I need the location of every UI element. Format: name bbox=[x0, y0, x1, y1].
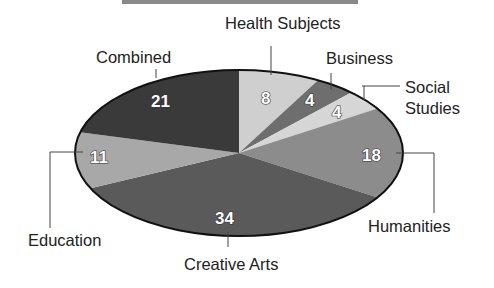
label-humanities: Humanities bbox=[368, 217, 451, 235]
label-health-subjects: Health Subjects bbox=[225, 14, 341, 32]
value-social-studies: 4 bbox=[332, 103, 342, 122]
label-creative-arts: Creative Arts bbox=[184, 255, 278, 273]
value-humanities: 18 bbox=[362, 146, 381, 165]
pie-chart: Health Subjects Business Social Studies … bbox=[0, 0, 494, 288]
label-social-line1: Social bbox=[405, 78, 450, 96]
label-combined: Combined bbox=[96, 48, 171, 66]
value-health-subjects: 8 bbox=[261, 89, 270, 108]
pie-slices bbox=[75, 70, 403, 236]
value-combined: 21 bbox=[151, 92, 170, 111]
header-bar bbox=[122, 0, 358, 4]
value-education: 11 bbox=[90, 148, 108, 167]
value-business: 4 bbox=[305, 91, 315, 110]
value-creative-arts: 34 bbox=[215, 209, 234, 228]
label-education: Education bbox=[28, 231, 101, 249]
label-business: Business bbox=[326, 49, 393, 67]
label-social-line2: Studies bbox=[405, 99, 460, 117]
